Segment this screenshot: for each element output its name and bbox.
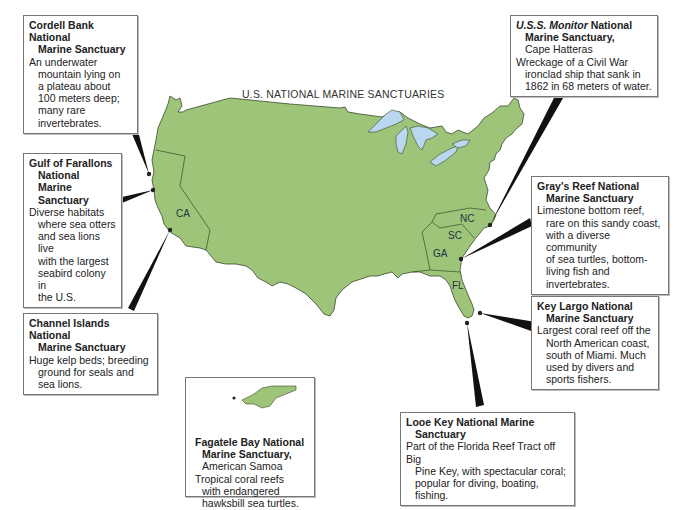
callout-looe-key: Looe Key National Marine Sanctuary Part … <box>400 412 575 506</box>
callout-desc: 100 meters deep; <box>29 92 132 104</box>
callout-uss-monitor: U.S.S. Monitor National Marine Sanctuary… <box>510 15 658 97</box>
callout-desc: An underwater <box>29 56 132 68</box>
callout-subtitle: Cape Hatteras <box>516 43 652 55</box>
callout-desc: Wreckage of a Civil War <box>516 56 652 68</box>
callout-desc: Tropical coral reefs <box>191 473 309 485</box>
callout-title-rest: National <box>588 19 632 31</box>
callout-title: Fagatele Bay National <box>191 436 309 448</box>
callout-fagatele-bay: Fagatele Bay National Marine Sanctuary, … <box>185 377 315 497</box>
callout-title: U.S.S. Monitor National <box>516 19 652 31</box>
state-label-ca: CA <box>176 208 190 219</box>
callout-title: Marine Sanctuary <box>29 43 132 55</box>
callout-desc: a plateau about <box>29 80 132 92</box>
callout-title: Key Largo National <box>537 300 653 312</box>
callout-desc: seabird colony in <box>29 267 116 291</box>
callout-desc: Limestone bottom reef, <box>537 204 663 216</box>
callout-desc: 1862 in 68 meters of water. <box>516 80 652 92</box>
us-landmass <box>152 96 524 318</box>
callout-title: Marine Sanctuary, <box>191 448 309 460</box>
callout-title: Marine Sanctuary <box>537 312 653 324</box>
state-label-sc: SC <box>448 230 462 241</box>
callout-desc: invertebrates. <box>29 117 132 129</box>
callout-title: Channel Islands National <box>29 317 152 341</box>
callout-desc: used by divers and <box>537 361 653 373</box>
callout-desc: invertebrates. <box>537 278 663 290</box>
callout-desc: with the largest <box>29 255 116 267</box>
callout-desc: and sea lions live <box>29 230 116 254</box>
state-label-fl: FL <box>452 280 464 291</box>
callout-desc: Huge kelp beds; breeding <box>29 354 152 366</box>
callout-subtitle: American Samoa <box>191 460 309 472</box>
state-label-ga: GA <box>433 248 447 259</box>
callout-desc: Largest coral reef off the <box>537 324 653 336</box>
callout-desc: popular for diving, boating, fishing. <box>406 477 569 501</box>
callout-cordell-bank: Cordell Bank National Marine Sanctuary A… <box>23 15 138 134</box>
callout-title: Gray's Reef National <box>537 180 663 192</box>
callout-gulf-of-farallons: Gulf of Farallons National Marine Sanctu… <box>23 153 122 308</box>
callout-title: Marine Sanctuary <box>29 341 152 353</box>
callout-desc: many rare <box>29 104 132 116</box>
callout-desc: the U.S. <box>29 291 116 303</box>
callout-desc: of sea turtles, bottom- <box>537 253 663 265</box>
callout-desc: sea lions. <box>29 378 152 390</box>
callout-title: Looe Key National Marine <box>406 416 569 428</box>
callout-title: Marine Sanctuary, <box>516 31 652 43</box>
callout-desc: hawksbill sea turtles. <box>191 497 309 509</box>
callout-desc: mountain lying on <box>29 68 132 80</box>
callout-title: Gulf of Farallons <box>29 157 116 169</box>
callout-title: Sanctuary <box>29 194 116 206</box>
callout-desc: living fish and <box>537 265 663 277</box>
callout-title: National Marine <box>29 169 116 193</box>
callout-desc: rare on this sandy coast, <box>537 217 663 229</box>
callout-desc: North American coast, <box>537 337 653 349</box>
callout-title-italic: U.S.S. Monitor <box>516 19 588 31</box>
callout-desc: where sea otters <box>29 218 116 230</box>
callout-desc: sports fishers. <box>537 373 653 385</box>
callout-desc: ground for seals and <box>29 366 152 378</box>
callout-channel-islands: Channel Islands National Marine Sanctuar… <box>23 313 158 395</box>
callout-desc: Part of the Florida Reef Tract off Big <box>406 440 569 464</box>
callout-grays-reef: Gray's Reef National Marine Sanctuary Li… <box>531 176 669 295</box>
map-title: U.S. NATIONAL MARINE SANCTUARIES <box>242 88 444 100</box>
callout-desc: south of Miami. Much <box>537 349 653 361</box>
callout-key-largo: Key Largo National Marine Sanctuary Larg… <box>531 296 659 390</box>
callout-desc: Pine Key, with spectacular coral; <box>406 465 569 477</box>
callout-title: Cordell Bank National <box>29 19 132 43</box>
callout-desc: ironclad ship that sank in <box>516 68 652 80</box>
callout-desc: with a diverse community <box>537 229 663 253</box>
callout-title: Marine Sanctuary <box>537 192 663 204</box>
callout-title: Sanctuary <box>406 428 569 440</box>
callout-desc: Diverse habitats <box>29 206 116 218</box>
callout-desc: with endangered <box>191 485 309 497</box>
state-label-nc: NC <box>460 213 474 224</box>
